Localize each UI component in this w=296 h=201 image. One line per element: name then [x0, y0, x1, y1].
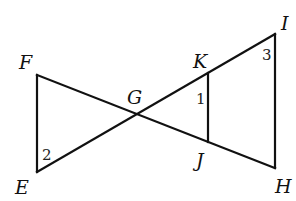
segment-ei [37, 34, 275, 172]
angle-label-2: 2 [42, 146, 52, 164]
angle-label-3: 3 [262, 46, 272, 64]
point-label-k: K [192, 50, 209, 72]
point-label-i: I [280, 12, 289, 34]
geometry-diagram: F E G K J I H 1 2 3 [0, 0, 296, 201]
angle-label-1: 1 [196, 90, 206, 108]
point-label-g: G [127, 86, 142, 108]
diagram-canvas: F E G K J I H 1 2 3 [0, 0, 296, 201]
point-label-f: F [18, 51, 33, 73]
segment-fh [37, 75, 275, 168]
point-label-j: J [192, 149, 205, 171]
point-label-e: E [14, 176, 29, 198]
point-label-h: H [274, 175, 292, 197]
